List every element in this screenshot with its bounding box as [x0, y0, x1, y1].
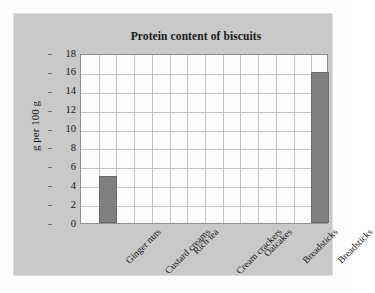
y-tick-mark [48, 92, 52, 93]
y-tick-label: 16 [54, 67, 76, 77]
y-tick-label: 10 [54, 124, 76, 134]
y-tick-label: 8 [54, 143, 76, 153]
y-tick-mark [48, 167, 52, 168]
x-tick-label: Ginger nuts [123, 226, 163, 266]
y-tick-label: 0 [54, 219, 76, 229]
y-tick-label: 18 [54, 49, 76, 59]
y-tick-mark [48, 54, 52, 55]
chart-title: Protein content of biscuits [64, 30, 328, 42]
y-tick-mark [48, 130, 52, 131]
y-axis-tick-labels: 181614121086420 [52, 54, 76, 224]
y-tick-mark [48, 111, 52, 112]
y-tick-label: 2 [54, 200, 76, 210]
y-tick-mark [48, 205, 52, 206]
bar [99, 176, 117, 223]
y-tick-label: 6 [54, 162, 76, 172]
y-tick-label: 14 [54, 86, 76, 96]
y-tick-mark [48, 186, 52, 187]
y-tick-label: 4 [54, 181, 76, 191]
x-tick-label: Breadsticks [335, 226, 374, 265]
plot-area [80, 54, 328, 224]
y-axis-title: g per 100 g [29, 78, 41, 174]
x-tick-label: Breadsticks [300, 226, 339, 265]
y-tick-mark [48, 148, 52, 149]
y-tick-mark [48, 224, 52, 225]
chart-panel: Protein content of biscuits g per 100 g … [14, 14, 332, 275]
x-axis-tick-labels: Ginger nutsCustard creamsRich teaCream c… [80, 224, 328, 288]
bar [311, 72, 329, 223]
y-tick-label: 12 [54, 105, 76, 115]
y-tick-mark [48, 73, 52, 74]
bar-series [81, 55, 327, 223]
